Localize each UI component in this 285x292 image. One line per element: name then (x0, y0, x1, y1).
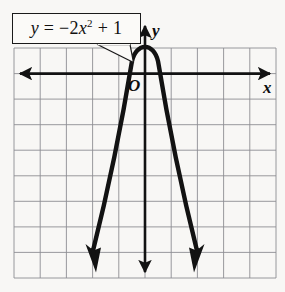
equation-equals: = (39, 18, 59, 38)
callout-pointer (98, 44, 134, 63)
equation-coefficient: −2 (59, 18, 79, 38)
equation-lhs: y (31, 18, 39, 38)
x-axis-label: x (263, 78, 272, 98)
equation-callout-box: y = −2x2 + 1 (12, 13, 141, 44)
equation-constant: 1 (113, 18, 122, 38)
parabola-figure: y = −2x2 + 1 y x O (0, 0, 285, 292)
equation-variable: x (79, 18, 87, 38)
equation-plus: + (93, 18, 113, 38)
equation-text: y = −2x2 + 1 (31, 18, 123, 39)
y-axis-label: y (152, 21, 160, 41)
origin-label: O (128, 76, 140, 96)
